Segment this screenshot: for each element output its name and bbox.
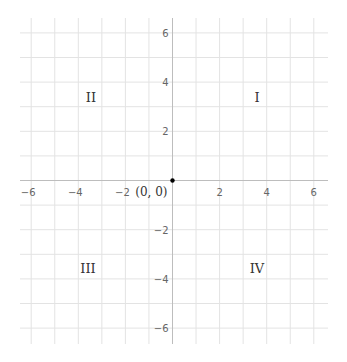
quadrant-label-i: I <box>254 90 259 105</box>
y-tick-label: 4 <box>162 77 168 88</box>
origin-label: (0, 0) <box>135 185 167 199</box>
y-tick-label: −6 <box>154 323 169 334</box>
x-tick-label: 4 <box>264 187 270 198</box>
x-tick-label: 6 <box>311 187 317 198</box>
origin-point <box>170 178 174 182</box>
x-axis-tick-labels: −6−4−2246 <box>21 187 317 198</box>
quadrant-label-iii: III <box>80 261 95 276</box>
y-tick-label: −4 <box>154 274 169 285</box>
x-tick-label: 2 <box>216 187 222 198</box>
x-tick-label: −4 <box>68 187 83 198</box>
quadrant-label-iv: IV <box>250 261 265 276</box>
y-tick-label: −2 <box>154 225 169 236</box>
y-tick-label: 2 <box>162 126 168 137</box>
x-tick-label: −6 <box>21 187 36 198</box>
quadrant-label-ii: II <box>86 90 96 105</box>
x-tick-label: −2 <box>115 187 130 198</box>
y-tick-label: 6 <box>162 28 168 39</box>
coordinate-plane: −6−4−2246 642−2−4−6 IIIIIIIV (0, 0) <box>0 0 347 362</box>
